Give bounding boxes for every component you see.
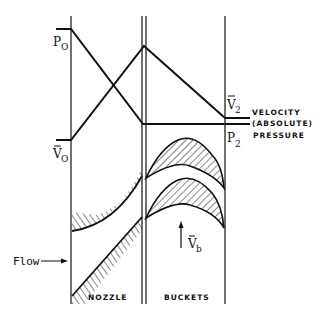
- blade-velocity-arrow: [179, 221, 184, 248]
- turbine-diagram: P O V O V 2 P 2 VELOCITY (ABSOLUTE) PRES…: [0, 0, 321, 319]
- v2-label: V 2: [226, 96, 241, 115]
- nozzle-caption: NOZZLE: [88, 293, 127, 302]
- p2-label: P 2: [227, 131, 241, 149]
- velocity-curve: [56, 46, 250, 140]
- velocity-legend: VELOCITY: [252, 108, 301, 117]
- svg-text:2: 2: [235, 105, 241, 115]
- svg-text:O: O: [61, 42, 68, 52]
- pressure-legend: PRESSURE: [253, 131, 305, 140]
- flow-arrow: Flow: [13, 255, 68, 268]
- velocity-legend-sub: (ABSOLUTE): [252, 119, 313, 128]
- svg-text:2: 2: [235, 139, 241, 149]
- svg-text:P: P: [53, 35, 61, 49]
- svg-text:O: O: [61, 154, 68, 164]
- svg-text:b: b: [196, 244, 202, 254]
- bucket-blade-lower: [146, 178, 224, 228]
- p0-label: P O: [53, 35, 68, 52]
- nozzle-wall-upper: [72, 168, 142, 231]
- vb-label: V b: [187, 236, 202, 254]
- svg-text:P: P: [227, 131, 235, 145]
- svg-text:Flow: Flow: [13, 255, 40, 268]
- buckets-caption: BUCKETS: [164, 293, 210, 302]
- v0-label: V O: [52, 146, 68, 164]
- pressure-curve: [56, 29, 250, 124]
